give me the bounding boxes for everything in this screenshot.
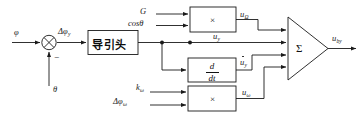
- summer-symbol: Σ: [296, 42, 302, 54]
- label-delta-phi-y: Δφy: [58, 27, 70, 36]
- branch-node-2: [188, 41, 192, 45]
- label-phi: φ: [14, 28, 19, 37]
- label-u-dot-y: uy: [240, 58, 247, 67]
- multiplier-bottom-symbol: ×: [210, 94, 215, 104]
- label-gain-G: G: [140, 7, 146, 16]
- multiplier-top-symbol: ×: [210, 15, 215, 25]
- seeker-block-label: 导引头: [92, 36, 127, 52]
- label-u-omega: uω: [242, 88, 250, 97]
- label-output-u-by: uby: [332, 34, 342, 43]
- block-diagram: φ Δφy − θ 导引头 G cosθ × uΩ uy d dt uy kω …: [0, 0, 364, 136]
- derivative-block-label: d dt: [198, 62, 226, 83]
- wire-uomegacap-to-summer: [236, 20, 286, 31]
- label-cos-theta: cosθ: [128, 19, 144, 28]
- label-u-y: uy: [213, 32, 220, 41]
- label-u-omega-cap: uΩ: [240, 10, 248, 19]
- diagram-canvas: [0, 0, 364, 136]
- label-delta-phi-omega: Δφω: [113, 97, 127, 106]
- summer-triangle: [288, 17, 328, 80]
- label-theta: θ: [53, 85, 57, 94]
- label-minus-sign: −: [54, 52, 59, 62]
- label-k-omega: kω: [136, 83, 144, 92]
